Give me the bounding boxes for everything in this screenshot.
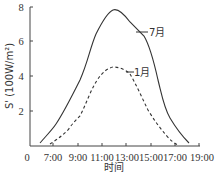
- series-jan-line: [50, 67, 178, 145]
- x-axis-title: 时间: [104, 161, 124, 172]
- x-tick-19: 19:00: [190, 152, 214, 163]
- y-tick-6: 6: [18, 36, 23, 47]
- jan-label: 1月: [134, 67, 150, 78]
- series-july-line: [40, 10, 189, 143]
- y-tick-4: 4: [18, 71, 24, 82]
- origin-label: 0: [24, 152, 29, 163]
- y-axis-title: S' (100W/m²): [4, 43, 15, 109]
- y-tick-2: 2: [18, 106, 23, 117]
- july-label: 7月: [149, 27, 165, 38]
- x-tick-7: 7:00: [44, 152, 63, 163]
- x-tick-17: 17:00: [163, 152, 187, 163]
- y-tick-labels: 8 6 4 2: [18, 2, 24, 117]
- y-tick-8: 8: [18, 2, 23, 13]
- solar-radiation-chart: 8 6 4 2 0 7:00 9:00 11:00 13:00 15:00 17…: [0, 0, 219, 172]
- x-tick-9: 9:00: [69, 152, 88, 163]
- x-tick-15: 15:00: [139, 152, 163, 163]
